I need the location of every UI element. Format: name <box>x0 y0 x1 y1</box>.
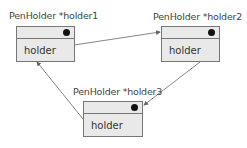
node-header <box>162 27 219 39</box>
node-title-holder3: PenHolder *holder3 <box>73 86 162 97</box>
node-field: holder <box>84 114 142 131</box>
pointer-dot-icon <box>208 29 215 36</box>
node-holder3: holder <box>83 101 143 137</box>
node-header <box>84 102 142 114</box>
node-title-holder2: PenHolder *holder2 <box>153 11 242 22</box>
node-field: holder <box>162 39 219 56</box>
edge-holder2-to-holder3 <box>144 62 200 105</box>
node-title-holder1: PenHolder *holder1 <box>9 10 98 21</box>
node-field: holder <box>17 39 74 56</box>
node-holder2: holder <box>161 26 220 62</box>
node-header <box>17 27 74 39</box>
pointer-dot-icon <box>131 104 138 111</box>
pointer-dot-icon <box>63 29 70 36</box>
node-holder1: holder <box>16 26 75 62</box>
edge-holder1-to-holder2 <box>74 32 160 45</box>
